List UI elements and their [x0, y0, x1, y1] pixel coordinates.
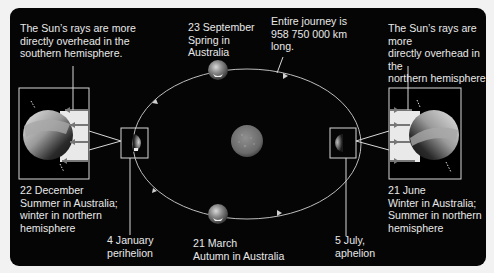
september-label: 23 September Spring in Australia [188, 21, 255, 59]
january-label: 4 January perihelion [107, 234, 154, 259]
earth-tilted-icon [23, 110, 73, 160]
earth-march-icon [208, 204, 228, 224]
journey-leader-line [277, 57, 283, 73]
december-label: 22 December Summer in Australia; winter … [20, 184, 118, 234]
earth-january-inset [121, 128, 148, 235]
earth-july-inset [330, 128, 356, 236]
left-callout-text: The Sun’s rays are more directly overhea… [20, 22, 136, 60]
right-callout-text: The Sun’s rays are more directly overhea… [388, 22, 494, 85]
zoom-connector-line [89, 141, 121, 150]
june-label: 21 June Winter in Australia; Summer in n… [388, 184, 482, 234]
orbit-arrow-icon [152, 188, 157, 193]
journey-label: Entire journey is 958 750 000 km long. [271, 15, 347, 53]
march-label: 21 March Autumn in Australia [193, 237, 284, 262]
july-label: 5 July, aphelion [335, 234, 375, 259]
zoom-connector-line [89, 131, 121, 141]
december-inset [19, 66, 89, 179]
sun-icon [231, 125, 263, 157]
earth-september-icon [208, 60, 228, 80]
zoom-connector-line [356, 131, 389, 141]
